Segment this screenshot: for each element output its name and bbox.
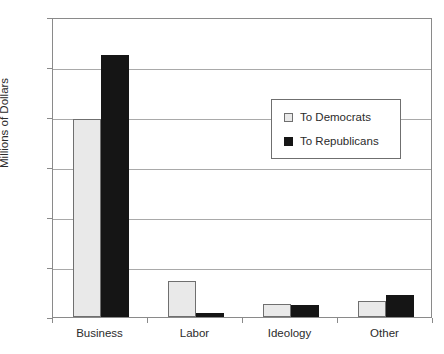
y-tick-mark (47, 218, 52, 219)
legend-swatch-republicans (284, 137, 293, 146)
y-tick-mark (47, 18, 52, 19)
bar (386, 295, 414, 317)
plot-area: To Democrats To Republicans (52, 18, 432, 318)
bar (101, 55, 129, 317)
bar (263, 304, 291, 317)
x-tick-mark (242, 318, 243, 323)
x-tick-label: Business (76, 327, 123, 339)
bar (168, 281, 196, 317)
y-tick-mark (47, 68, 52, 69)
legend-item-democrats: To Democrats (284, 111, 371, 123)
y-tick-mark (47, 268, 52, 269)
legend-label-republicans: To Republicans (300, 135, 379, 147)
legend-label-democrats: To Democrats (300, 111, 371, 123)
y-tick-mark (47, 168, 52, 169)
x-tick-label: Other (370, 327, 399, 339)
x-tick-label: Ideology (268, 327, 311, 339)
bar (358, 301, 386, 317)
x-tick-label: Labor (180, 327, 209, 339)
x-tick-mark (147, 318, 148, 323)
bar (73, 119, 101, 317)
bar-chart: Millions of Dollars To Democrats To Repu… (0, 0, 444, 354)
legend-swatch-democrats (284, 113, 293, 122)
y-tick-mark (47, 118, 52, 119)
x-tick-mark (337, 318, 338, 323)
y-axis-title: Millions of Dollars (0, 78, 10, 168)
legend-item-republicans: To Republicans (284, 135, 379, 147)
legend: To Democrats To Republicans (271, 99, 401, 159)
bar (291, 305, 319, 317)
bar (196, 313, 224, 317)
x-tick-mark (432, 318, 433, 323)
x-tick-mark (52, 318, 53, 323)
